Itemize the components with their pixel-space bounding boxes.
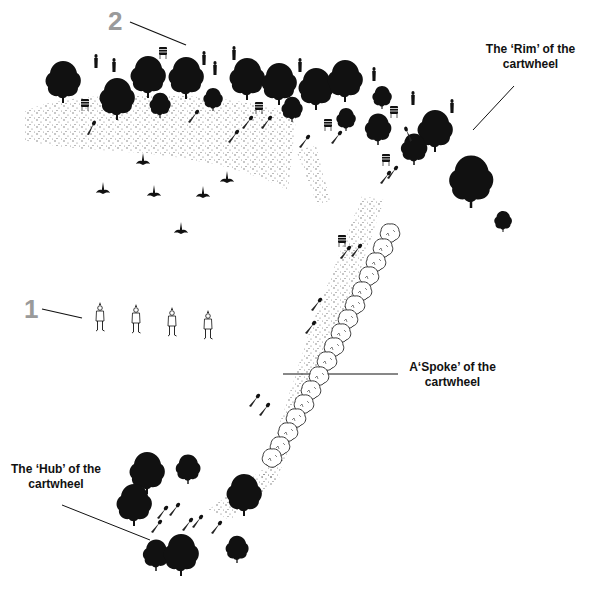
hedge-spoke [262, 224, 400, 467]
hub-label: The ‘Hub’ of the cartwheel [4, 462, 108, 492]
spoke-label-line1: A‘Spoke’ of the [400, 360, 505, 375]
spoke-label: A‘Spoke’ of the cartwheel [400, 360, 505, 390]
marker-2-leader [130, 22, 186, 45]
spoke-label-line2: cartwheel [400, 375, 505, 390]
marker-1-label: 1 [24, 296, 38, 322]
marker-1-leader [42, 309, 82, 318]
hub-label-line2: cartwheel [4, 477, 108, 492]
rim-label: The ‘Rim’ of the cartwheel [478, 42, 583, 72]
hub-label-line1: The ‘Hub’ of the [4, 462, 108, 477]
marker-2-label: 2 [108, 8, 122, 34]
birds [96, 153, 234, 234]
diagram-artwork [0, 0, 589, 592]
stipple-ground [24, 95, 384, 520]
cartwheel-diagram: 2 1 The ‘Rim’ of the cartwheel A‘Spoke’ … [0, 0, 589, 592]
rim-label-line2: cartwheel [478, 57, 583, 72]
rim-leader [473, 86, 514, 130]
soldier-line [96, 302, 213, 339]
hub-trees [117, 452, 262, 576]
rim-label-line1: The ‘Rim’ of the [478, 42, 583, 57]
